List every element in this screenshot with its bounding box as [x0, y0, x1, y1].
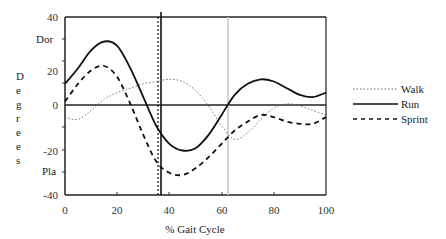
reference-lines — [158, 12, 228, 195]
y-axis-label: D e g r e e s — [16, 70, 24, 166]
dorsiflexion-label: Dor — [36, 33, 53, 45]
legend-sprint-label: Sprint — [401, 113, 428, 125]
series-run-line — [65, 41, 326, 151]
y-label-letter: e — [16, 84, 21, 96]
y-label-letter: e — [16, 126, 21, 138]
legend-run-label: Run — [401, 98, 420, 110]
x-tick-label: 0 — [62, 204, 68, 216]
series-layer — [65, 41, 326, 175]
plantarflexion-label: Pla — [42, 165, 56, 177]
y-label-letter: g — [16, 98, 22, 110]
series-sprint-line — [65, 66, 326, 176]
x-tick-label: 80 — [269, 204, 281, 216]
y-tick-label: -40 — [43, 189, 58, 201]
y-label-letter: e — [16, 140, 21, 152]
legend: Walk Run Sprint — [353, 83, 428, 125]
x-tick-label: 60 — [217, 204, 229, 216]
x-tick-label: 40 — [164, 204, 176, 216]
y-label-letter: s — [16, 154, 20, 166]
y-tick-label: 40 — [47, 11, 59, 23]
x-tick-label: 20 — [112, 204, 124, 216]
gait-angle-chart: D e g r e e s 40 20 0 -20 -40 Dor Pla — [0, 0, 446, 239]
legend-walk-label: Walk — [401, 83, 424, 95]
y-label-letter: r — [16, 112, 20, 124]
x-axis-label: % Gait Cycle — [165, 223, 224, 235]
y-label-letter: D — [16, 70, 24, 82]
x-tick-label: 100 — [318, 204, 335, 216]
y-tick-label: -20 — [43, 145, 58, 157]
y-tick-label: 0 — [53, 99, 59, 111]
y-tick-label: 20 — [47, 65, 59, 77]
